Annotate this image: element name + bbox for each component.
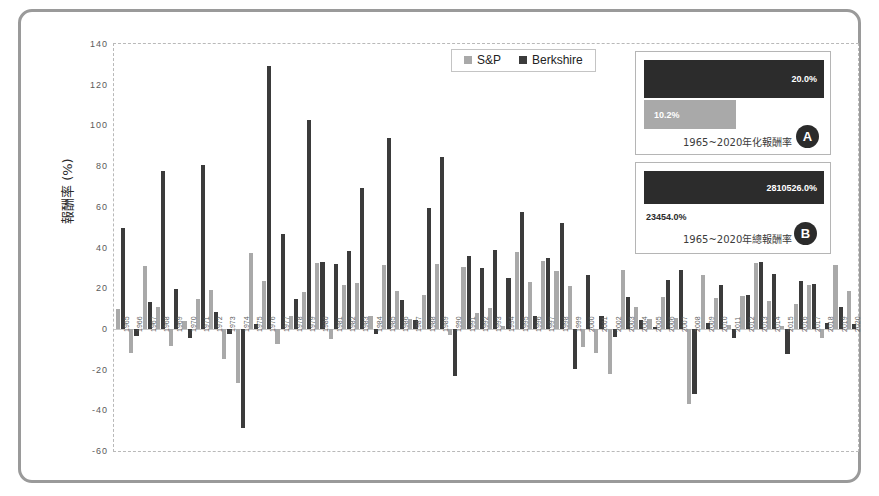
bar-berkshire-1989 <box>440 157 444 329</box>
x-tick-label: 1974 <box>243 316 250 332</box>
x-tick-label: 2000 <box>588 316 595 332</box>
y-tick-label: -60 <box>92 446 108 456</box>
x-tick-label: 2011 <box>734 317 741 332</box>
bar-s-p-1973 <box>222 329 226 359</box>
x-tick-label: 1975 <box>256 316 263 332</box>
x-tick-label: 1994 <box>508 316 515 332</box>
x-tick-label: 1982 <box>349 316 356 332</box>
x-tick-label: 1978 <box>296 316 303 332</box>
x-tick-label: 1993 <box>495 316 502 332</box>
bar-s-p-1967 <box>143 266 147 329</box>
inset-a-berkshire-value: 20.0% <box>791 74 817 84</box>
x-tick-label: 1991 <box>469 316 476 332</box>
x-tick-label: 1972 <box>216 316 223 332</box>
bar-s-p-1966 <box>129 329 133 353</box>
x-tick-label: 1983 <box>362 316 369 332</box>
screenshot-root: 報酬率 (%) 140120100806040200-20-40-60 1965… <box>0 0 879 496</box>
inset-panel-annualized-return: 20.0% 10.2% 1965~2020年化報酬率 A <box>635 51 831 155</box>
x-tick-label: 2010 <box>721 316 728 332</box>
bar-s-p-1974 <box>236 329 240 383</box>
x-tick-label: 1969 <box>176 316 183 332</box>
bar-berkshire-1995 <box>520 212 524 329</box>
bar-berkshire-1974 <box>241 329 245 428</box>
x-tick-label: 2007 <box>681 316 688 332</box>
bar-berkshire-1999 <box>573 329 577 369</box>
y-tick-label: 40 <box>96 243 108 253</box>
x-tick-label: 1965 <box>123 316 130 332</box>
legend-swatch-sp-icon <box>464 56 472 64</box>
bar-berkshire-2015 <box>785 329 789 354</box>
y-tick-label: 100 <box>90 120 108 130</box>
y-tick-label: -40 <box>92 405 108 415</box>
inset-b-berkshire-bar: 2810526.0% <box>644 171 824 204</box>
bar-s-p-2002 <box>608 329 612 374</box>
chart-legend: S&P Berkshire <box>451 49 596 72</box>
window-frame: 報酬率 (%) 140120100806040200-20-40-60 1965… <box>18 9 861 483</box>
x-tick-label: 2008 <box>694 316 701 332</box>
x-tick-label: 1987 <box>415 316 422 332</box>
y-axis-title: 報酬率 (%) <box>57 158 76 224</box>
bar-berkshire-1971 <box>201 165 205 329</box>
x-tick-label: 1990 <box>455 316 462 332</box>
bar-berkshire-1998 <box>560 223 564 329</box>
x-tick-label: 1988 <box>429 316 436 332</box>
legend-swatch-berkshire-icon <box>519 56 527 64</box>
x-tick-label: 1981 <box>336 316 343 332</box>
bar-berkshire-1965 <box>121 228 125 329</box>
inset-b-badge: B <box>794 222 817 245</box>
inset-a-caption: 1965~2020年化報酬率 <box>683 134 792 149</box>
y-tick-label: -20 <box>92 365 108 375</box>
inset-b-caption: 1965~2020年總報酬率 <box>683 231 792 246</box>
legend-item-sp: S&P <box>464 53 501 67</box>
bar-berkshire-1988 <box>427 208 431 329</box>
x-tick-label: 2005 <box>655 316 662 332</box>
x-tick-label: 1971 <box>203 316 210 332</box>
bar-s-p-1981 <box>329 329 333 339</box>
inset-panel-total-return: 2810526.0% 23454.0% 1965~2020年總報酬率 B <box>635 162 831 254</box>
y-tick-label: 120 <box>90 80 108 90</box>
inset-b-berkshire-value: 2810526.0% <box>766 183 817 193</box>
x-tick-label: 2017 <box>814 316 821 332</box>
x-tick-label: 2015 <box>787 316 794 332</box>
x-tick-label: 1966 <box>136 316 143 332</box>
x-tick-label: 2002 <box>615 316 622 332</box>
y-tick-label: 60 <box>96 202 108 212</box>
x-tick-label: 2009 <box>708 316 715 332</box>
bar-s-p-2008 <box>687 329 691 404</box>
x-tick-label: 1977 <box>283 316 290 332</box>
bar-s-p-2016 <box>794 304 798 328</box>
inset-a-berkshire-bar: 20.0% <box>644 60 824 98</box>
x-tick-label: 1980 <box>322 316 329 332</box>
x-tick-label: 1998 <box>562 316 569 332</box>
bar-berkshire-1990 <box>453 329 457 376</box>
x-tick-label: 1973 <box>229 316 236 332</box>
x-tick-label: 2004 <box>641 316 648 332</box>
y-tick-label: 140 <box>90 39 108 49</box>
x-tick-label: 1979 <box>309 316 316 332</box>
x-tick-label: 2013 <box>761 316 768 332</box>
inset-a-sp-value: 10.2% <box>654 110 680 120</box>
chart-container: 報酬率 (%) 140120100806040200-20-40-60 1965… <box>47 29 874 487</box>
x-tick-label: 2016 <box>801 316 808 332</box>
bar-s-p-2001 <box>594 329 598 353</box>
y-tick-label: 20 <box>96 283 108 293</box>
x-tick-label: 2012 <box>748 316 755 332</box>
bar-berkshire-1979 <box>307 120 311 329</box>
x-tick-label: 1989 <box>442 316 449 332</box>
x-tick-label: 1985 <box>389 316 396 332</box>
x-tick-label: 2018 <box>827 316 834 332</box>
legend-label-sp: S&P <box>477 53 501 67</box>
x-tick-label: 1986 <box>402 316 409 332</box>
bar-berkshire-1983 <box>360 188 364 328</box>
x-tick-label: 1968 <box>163 316 170 332</box>
bar-berkshire-1985 <box>387 138 391 329</box>
x-tick-label: 1999 <box>575 316 582 332</box>
x-tick-label: 2020 <box>854 316 861 332</box>
x-tick-label: 1995 <box>522 316 529 332</box>
x-tick-label: 1997 <box>548 316 555 332</box>
y-tick-label: 80 <box>96 161 108 171</box>
bar-s-p-2009 <box>701 275 705 329</box>
bar-berkshire-2008 <box>692 329 696 394</box>
inset-a-badge: A <box>796 125 819 148</box>
x-tick-label: 1970 <box>190 316 197 332</box>
